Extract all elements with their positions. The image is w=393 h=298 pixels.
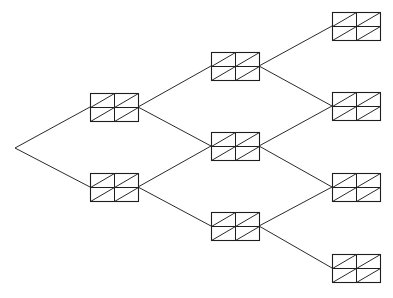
tree-edge: [259, 66, 332, 106]
tree-edge: [138, 66, 211, 107]
node-box-l3-1: [333, 93, 381, 121]
node-box-l2-1: [212, 133, 260, 161]
tree-edges: [15, 26, 332, 268]
tree-edge: [138, 107, 211, 146]
node-box-l1-0: [91, 94, 139, 122]
tree-edge: [15, 148, 90, 187]
tree-edge: [259, 26, 332, 66]
tree-edge: [259, 146, 332, 187]
tree-edge: [15, 107, 90, 148]
node-box-l2-0: [212, 53, 260, 81]
tree-edge: [259, 226, 332, 268]
tree-edge: [259, 187, 332, 226]
node-box-l2-2: [212, 213, 260, 241]
node-box-l3-2: [333, 174, 381, 202]
node-box-l3-0: [333, 13, 381, 41]
tree-edge: [138, 187, 211, 226]
tree-edge: [259, 106, 332, 146]
recombining-tree-diagram: [0, 0, 393, 298]
tree-nodes: [91, 13, 381, 283]
tree-edge: [138, 146, 211, 187]
node-box-l3-3: [333, 255, 381, 283]
node-box-l1-1: [91, 174, 139, 202]
